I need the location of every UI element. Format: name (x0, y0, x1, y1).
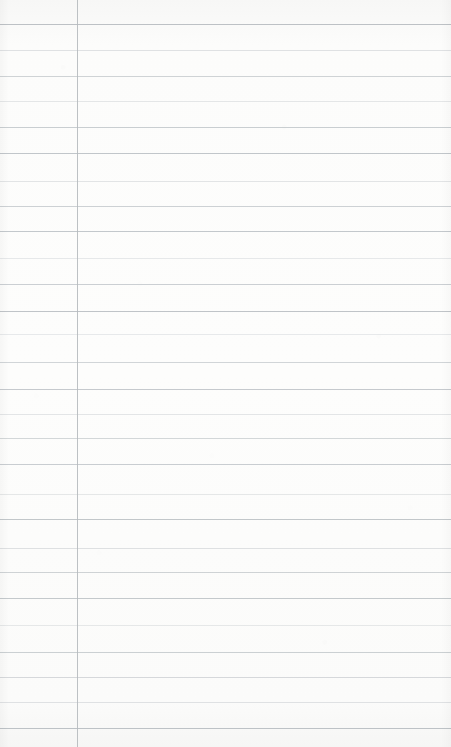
notebook-page (0, 0, 451, 747)
writing-area[interactable] (0, 0, 451, 747)
